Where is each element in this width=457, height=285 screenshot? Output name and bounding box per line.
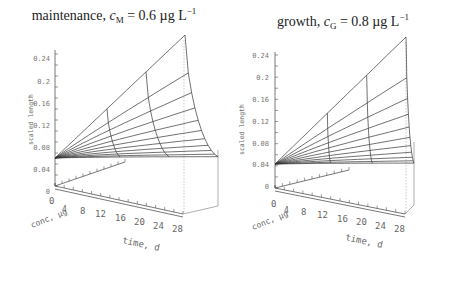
svg-text:0.24: 0.24 (252, 52, 269, 60)
svg-text:0.04: 0.04 (252, 161, 269, 169)
svg-text:0.2: 0.2 (256, 74, 269, 82)
surface-plot-growth: 0.24 0.2 0.16 0.12 0.08 0.04 0 scaled le… (229, 0, 457, 285)
time-axis-label: time, d (345, 232, 384, 250)
svg-text:0.08: 0.08 (33, 144, 50, 152)
svg-text:8: 8 (301, 207, 306, 217)
svg-text:24: 24 (375, 221, 386, 231)
svg-text:12: 12 (317, 210, 328, 220)
svg-text:0.16: 0.16 (252, 96, 269, 104)
svg-text:0: 0 (265, 183, 269, 191)
conc-axis-label: conc, µg (250, 209, 289, 232)
svg-text:0: 0 (46, 188, 50, 196)
svg-text:16: 16 (337, 214, 348, 224)
svg-text:12: 12 (95, 209, 106, 219)
svg-text:20: 20 (356, 217, 367, 227)
svg-text:16: 16 (115, 213, 126, 223)
svg-text:20: 20 (134, 217, 145, 227)
z-axis-label: scaled length (238, 104, 246, 155)
time-tick-labels: 0 4 8 12 16 20 24 28 (49, 196, 183, 234)
z-tick-labels: 0.24 0.2 0.16 0.12 0.08 0.04 0 (33, 55, 50, 196)
time-tick-labels: 0 4 8 12 16 20 24 28 (271, 199, 405, 234)
svg-text:0.08: 0.08 (252, 140, 269, 148)
svg-text:0: 0 (49, 196, 54, 206)
svg-text:0.24: 0.24 (33, 55, 50, 63)
svg-text:0.04: 0.04 (33, 166, 50, 174)
chart-growth: growth, cG = 0.8 µg L−1 0.24 0.2 0.16 0.… (229, 0, 457, 285)
svg-text:28: 28 (394, 224, 405, 234)
svg-text:8: 8 (80, 206, 85, 216)
svg-text:24: 24 (153, 221, 164, 231)
z-axis-label: scaled length (27, 94, 35, 145)
z-tick-labels: 0.24 0.2 0.16 0.12 0.08 0.04 0 (252, 52, 269, 191)
conc-axis-label: conc, µg (29, 207, 68, 230)
surface-plot-maintenance: 0.24 0.2 0.16 0.12 0.08 0.04 0 scaled le… (0, 0, 228, 285)
svg-text:28: 28 (172, 224, 183, 234)
chart-maintenance: maintenance, cM = 0.6 µg L−1 0.24 0.2 0.… (0, 0, 228, 285)
svg-text:0.2: 0.2 (37, 78, 50, 86)
svg-text:0.12: 0.12 (33, 122, 50, 130)
svg-text:0.16: 0.16 (33, 100, 50, 108)
time-axis-label: time, d (122, 235, 161, 253)
svg-text:0: 0 (271, 199, 276, 209)
svg-text:0.12: 0.12 (252, 118, 269, 126)
